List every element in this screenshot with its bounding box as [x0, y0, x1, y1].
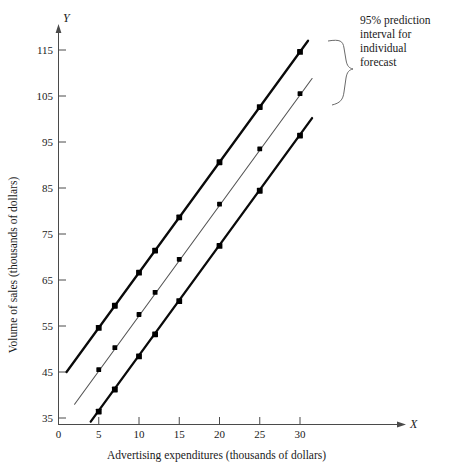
prediction-interval-chart: Y X 35455565758595105115 051015202530 95… [0, 0, 455, 471]
data-point-marker [176, 215, 182, 221]
y-tick-label: 115 [37, 44, 54, 56]
data-point-marker [112, 345, 117, 350]
x-tick-label: 0 [56, 428, 62, 440]
chart-figure: Y X 35455565758595105115 051015202530 95… [0, 0, 455, 471]
data-point-marker [112, 303, 118, 309]
x-tick-group: 051015202530 [56, 417, 306, 440]
x-tick-label: 20 [214, 428, 226, 440]
data-point-marker [177, 257, 182, 262]
annotation-line: forecast [360, 56, 397, 68]
curly-brace-icon [328, 40, 353, 105]
y-axis-arrowhead [56, 24, 62, 33]
annotation-line: individual [360, 42, 407, 54]
y-tick-label: 35 [42, 412, 54, 424]
data-point-marker [257, 147, 262, 152]
data-point-marker [136, 270, 142, 276]
data-point-marker [153, 290, 158, 295]
x-tick-label: 30 [295, 428, 307, 440]
data-point-marker [96, 409, 102, 415]
data-point-marker [217, 202, 222, 207]
data-point-marker [96, 367, 101, 372]
y-tick-label: 75 [42, 228, 54, 240]
y-tick-label: 65 [42, 274, 54, 286]
data-point-marker [217, 159, 223, 165]
x-axis-letter: X [409, 417, 418, 431]
data-point-marker [176, 298, 182, 304]
data-point-marker [257, 104, 263, 110]
data-point-marker [152, 331, 158, 337]
y-tick-label: 55 [42, 320, 54, 332]
y-axis-letter: Y [63, 11, 71, 25]
x-axis-title: Advertising expenditures (thousands of d… [107, 449, 326, 462]
data-point-marker [297, 133, 303, 139]
data-point-marker [152, 248, 158, 254]
annotation-line: 95% prediction [360, 14, 431, 27]
series-line [67, 41, 308, 372]
y-tick-group: 35455565758595105115 [37, 44, 67, 424]
prediction-interval-note: 95% predictioninterval forindividualfore… [360, 14, 431, 68]
prediction-interval-brace [328, 40, 353, 105]
data-point-marker [298, 91, 303, 96]
data-point-marker [112, 387, 118, 393]
x-tick-label: 5 [96, 428, 102, 440]
series-line [75, 79, 312, 405]
data-point-marker [136, 353, 142, 359]
y-tick-label: 95 [42, 136, 54, 148]
x-axis-arrowhead [397, 422, 406, 428]
annotation-line: interval for [360, 28, 412, 40]
x-tick-label: 10 [134, 428, 146, 440]
y-tick-label: 45 [42, 366, 54, 378]
series-0 [67, 41, 308, 372]
series-layer [67, 41, 313, 422]
data-point-marker [217, 243, 223, 249]
y-tick-label: 105 [37, 90, 54, 102]
data-point-marker [96, 325, 102, 331]
y-axis: Y [56, 11, 71, 425]
series-1 [75, 79, 312, 405]
series-line [91, 118, 312, 422]
x-axis: X [59, 417, 419, 431]
x-tick-label: 25 [254, 428, 266, 440]
x-tick-label: 15 [174, 428, 186, 440]
data-point-marker [297, 49, 303, 55]
data-point-marker [137, 312, 142, 317]
data-point-marker [257, 188, 263, 194]
y-tick-label: 85 [42, 182, 54, 194]
series-2 [91, 118, 312, 422]
y-axis-title: Volume of sales (thousands of dollars) [7, 177, 20, 354]
